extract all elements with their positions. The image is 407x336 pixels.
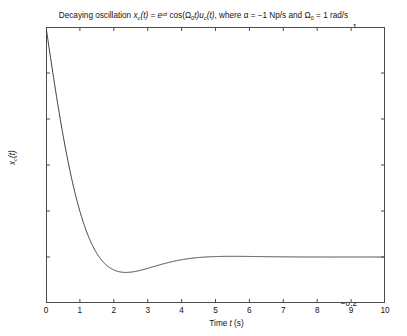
title-where: , where [215,11,244,20]
xtick-label-9: 9 [336,306,366,315]
ylabel-arg: (t) [8,150,17,158]
plot-area [46,27,385,303]
xtick-label-0: 0 [31,306,61,315]
ylabel-subscript: c [12,158,18,161]
xtick-label-1: 1 [65,306,95,315]
figure-canvas: Decaying oscillation xc(t) = eαt cos(Ω0t… [0,0,407,336]
curve-plot [46,27,385,303]
xtick-label-5: 5 [201,306,231,315]
title-equals: = [148,11,157,20]
title-u-arg: (t) [207,11,215,20]
title-cos-open: cos( [167,11,185,20]
xlabel-prefix: Time [209,319,229,328]
tick-marks [46,27,385,303]
title-omega-value: = 1 rad/s [314,11,348,20]
xtick-label-6: 6 [234,306,264,315]
x-axis-label: Time t (s) [0,319,407,328]
data-curve-path [46,27,385,272]
xtick-label-8: 8 [302,306,332,315]
title-alpha-value: = −1 Np/s and [248,11,304,20]
xtick-label-7: 7 [268,306,298,315]
xtick-label-4: 4 [167,306,197,315]
ylabel-var: x [8,161,17,165]
title-prefix: Decaying oscillation [59,11,134,20]
y-axis-label: xc(t) [8,150,18,165]
xtick-label-10: 10 [370,306,400,315]
xlabel-suffix: (s) [232,319,244,328]
xtick-label-3: 3 [133,306,163,315]
xtick-label-2: 2 [99,306,129,315]
